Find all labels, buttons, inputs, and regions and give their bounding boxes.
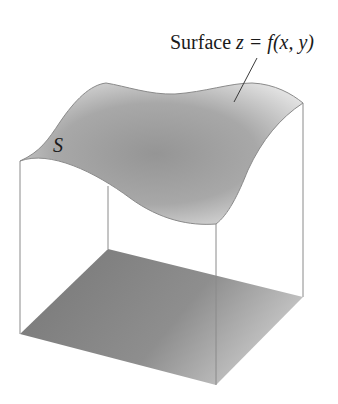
surface-equation-label: Surface z = f(x, y): [170, 31, 314, 54]
diagram-graphic: [0, 0, 338, 404]
base-region: [20, 249, 303, 385]
surface-label-prefix: Surface: [170, 31, 236, 53]
surface-equation: z = f(x, y): [236, 31, 314, 53]
surface-diagram: Surface z = f(x, y) S: [0, 0, 338, 404]
surface-symbol-label: S: [53, 134, 63, 157]
